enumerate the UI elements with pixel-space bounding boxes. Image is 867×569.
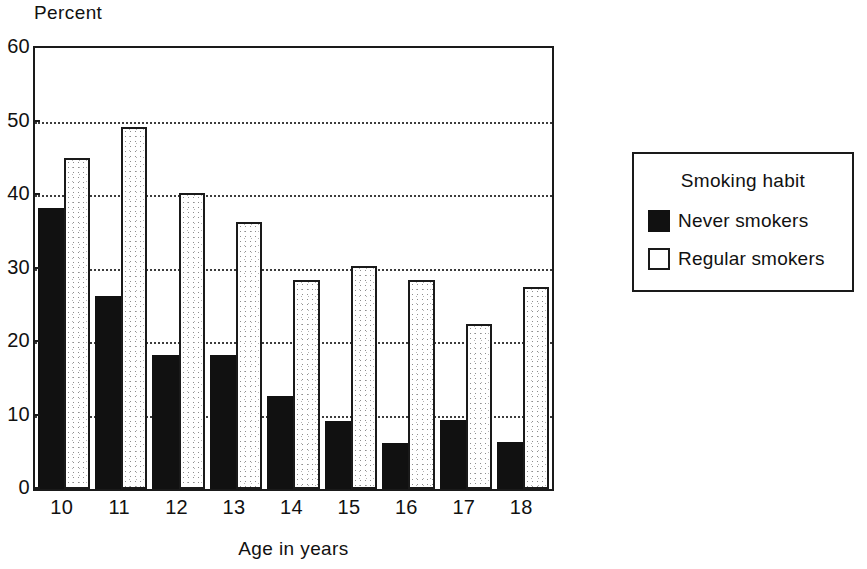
bar-never-smokers-age-17 (440, 420, 466, 489)
legend-swatch-regular-smokers (648, 248, 670, 270)
bar-group-age-11 (92, 48, 149, 489)
x-tick-label-11: 11 (90, 495, 147, 519)
bar-group-age-10 (35, 48, 92, 489)
x-axis-title: Age in years (33, 538, 554, 560)
bar-never-smokers-age-10 (38, 208, 64, 490)
bar-never-smokers-age-11 (95, 296, 121, 489)
y-axis-title: Percent (34, 2, 102, 24)
bar-group-age-16 (380, 48, 437, 489)
chart-figure: Percent 0102030405060 101112131415161718… (0, 0, 867, 569)
bar-group-age-14 (265, 48, 322, 489)
y-tick-mark-10 (33, 414, 40, 416)
x-tick-label-13: 13 (205, 495, 262, 519)
bar-never-smokers-age-18 (497, 442, 523, 489)
bar-regular-smokers-age-12 (179, 193, 205, 489)
y-tick-mark-20 (33, 340, 40, 342)
bar-group-age-12 (150, 48, 207, 489)
y-tick-mark-40 (33, 193, 40, 195)
legend-title: Smoking habit (634, 170, 852, 192)
legend-item-regular-smokers: Regular smokers (648, 246, 825, 272)
bar-group-age-13 (207, 48, 264, 489)
y-axis-tick-labels: 0102030405060 (0, 46, 30, 491)
y-tick-label-30: 30 (0, 257, 30, 277)
y-tick-label-0: 0 (0, 477, 30, 497)
legend-swatch-never-smokers (648, 210, 670, 232)
bar-never-smokers-age-14 (267, 396, 293, 489)
x-tick-label-12: 12 (148, 495, 205, 519)
bar-regular-smokers-age-18 (523, 287, 549, 489)
bar-regular-smokers-age-11 (121, 127, 147, 489)
x-tick-label-10: 10 (33, 495, 90, 519)
x-tick-label-14: 14 (263, 495, 320, 519)
bar-group-age-17 (437, 48, 494, 489)
y-tick-label-20: 20 (0, 330, 30, 350)
plot-inner (35, 48, 552, 489)
x-tick-label-16: 16 (378, 495, 435, 519)
legend: Smoking habit Never smokers Regular smok… (632, 152, 854, 292)
x-axis-tick-labels: 101112131415161718 (33, 495, 554, 525)
y-tick-mark-0 (33, 487, 40, 489)
bar-regular-smokers-age-15 (351, 266, 377, 489)
plot-area (33, 46, 554, 491)
x-tick-label-18: 18 (493, 495, 550, 519)
y-tick-label-10: 10 (0, 404, 30, 424)
y-tick-mark-50 (33, 120, 40, 122)
y-tick-mark-30 (33, 267, 40, 269)
legend-label-regular-smokers: Regular smokers (678, 248, 825, 270)
y-tick-label-40: 40 (0, 183, 30, 203)
bar-never-smokers-age-12 (152, 355, 178, 490)
bar-never-smokers-age-15 (325, 421, 351, 489)
y-tick-label-60: 60 (0, 36, 30, 56)
x-tick-label-17: 17 (435, 495, 492, 519)
bar-regular-smokers-age-16 (408, 280, 434, 489)
bar-group-age-15 (322, 48, 379, 489)
y-tick-label-50: 50 (0, 110, 30, 130)
legend-label-never-smokers: Never smokers (678, 210, 808, 232)
bar-regular-smokers-age-17 (466, 324, 492, 489)
bar-group-age-18 (495, 48, 552, 489)
bar-regular-smokers-age-10 (64, 158, 90, 489)
x-tick-label-15: 15 (320, 495, 377, 519)
bar-never-smokers-age-13 (210, 355, 236, 490)
legend-item-never-smokers: Never smokers (648, 208, 808, 234)
bar-regular-smokers-age-13 (236, 222, 262, 489)
y-tick-mark-60 (33, 46, 40, 48)
bar-never-smokers-age-16 (382, 443, 408, 489)
bar-regular-smokers-age-14 (293, 280, 319, 489)
